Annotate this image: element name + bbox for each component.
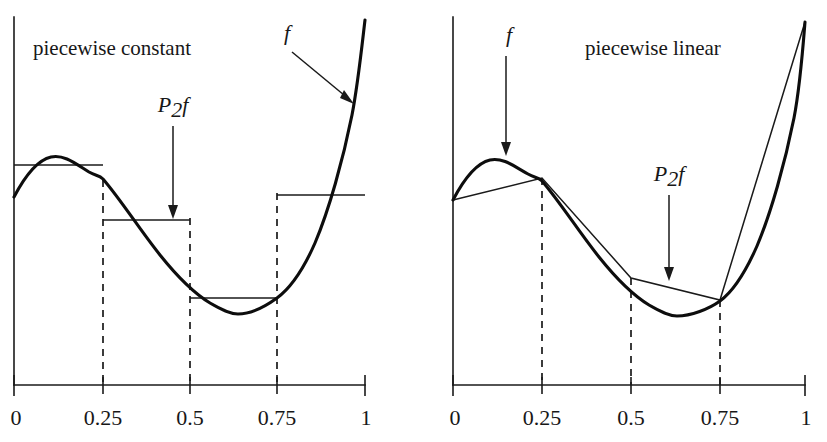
panel-piecewise-linear: f P2f piecewise linear 0 0.25 0.5 0.75 1 — [450, 17, 812, 430]
left-tick-label-0.75: 0.75 — [258, 405, 297, 430]
left-annotation-f: f — [284, 20, 354, 104]
right-arrow-f-head — [501, 142, 511, 156]
right-tick-label-1: 1 — [801, 405, 812, 430]
left-label-p2f-base: P — [157, 92, 171, 117]
left-arrow-p2f-head — [168, 205, 178, 219]
right-tick-label-0.75: 0.75 — [701, 405, 740, 430]
right-tick-label-0: 0 — [450, 405, 461, 430]
left-label-f: f — [284, 20, 293, 45]
left-tick-label-0.5: 0.5 — [176, 405, 204, 430]
left-tick-label-0: 0 — [11, 405, 22, 430]
left-curve-f — [14, 20, 365, 314]
right-tick-label-0.25: 0.25 — [523, 405, 562, 430]
right-label-p2f-base: P — [653, 161, 667, 186]
right-panel-title: piecewise linear — [585, 36, 721, 60]
right-tick-label-0.5: 0.5 — [617, 405, 645, 430]
left-arrow-f-head — [340, 90, 354, 104]
right-label-p2f-fn: f — [678, 161, 687, 186]
left-tick-label-0.25: 0.25 — [84, 405, 123, 430]
left-arrow-f-shaft — [292, 52, 350, 100]
right-arrow-p2f-head — [664, 267, 674, 281]
left-label-p2f-sub: 2 — [171, 97, 182, 122]
right-label-p2f: P2f — [653, 161, 687, 191]
left-annotation-p2f: P2f — [157, 92, 191, 219]
left-label-p2f-fn: f — [182, 92, 191, 117]
left-label-p2f: P2f — [157, 92, 191, 122]
left-tick-label-1: 1 — [361, 405, 372, 430]
panel-piecewise-constant: f P2f piecewise constant 0 0.25 0.5 0.75… — [11, 17, 372, 430]
right-label-f: f — [506, 22, 515, 47]
right-label-p2f-sub: 2 — [667, 166, 678, 191]
right-annotation-p2f: P2f — [653, 161, 687, 281]
right-annotation-f: f — [501, 22, 515, 156]
figure-root: f P2f piecewise constant 0 0.25 0.5 0.75… — [0, 0, 827, 442]
figure-svg: f P2f piecewise constant 0 0.25 0.5 0.75… — [0, 0, 827, 442]
left-panel-title: piecewise constant — [33, 36, 191, 60]
